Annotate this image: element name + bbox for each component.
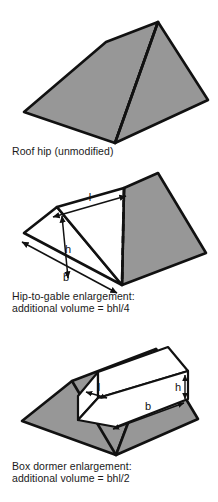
figure-3-caption-line2: additional volume = bhl/2 [12, 472, 130, 484]
breadth-label: b [145, 400, 151, 412]
figure-1-caption: Roof hip (unmodified) [12, 145, 113, 157]
box-dormer-diagram: l h b [0, 325, 218, 465]
gable-roof-shaded-slope [122, 173, 206, 285]
illustration-page: Roof hip (unmodified) l [0, 0, 218, 502]
hip-to-gable-diagram: l h b [0, 165, 218, 295]
length-label: l [98, 381, 100, 393]
height-label: h [175, 381, 181, 393]
breadth-label: b [63, 271, 69, 283]
figure-3-caption-line1: Box dormer enlargement: [12, 460, 132, 472]
figure-3-caption: Box dormer enlargement:additional volume… [12, 460, 132, 485]
figure-2-caption: Hip-to-gable enlargement:additional volu… [12, 290, 135, 315]
figure-2-caption-line1: Hip-to-gable enlargement: [12, 290, 135, 302]
figure-roof-hip-unmodified: Roof hip (unmodified) [0, 0, 218, 165]
figure-hip-to-gable-enlargement: l h b Hip-to-gable enlargement:additiona… [0, 165, 218, 325]
length-label: l [89, 191, 91, 203]
figure-box-dormer-enlargement: l h b Box dormer enlargement:additional … [0, 325, 218, 502]
figure-2-caption-line2: additional volume = bhl/4 [12, 302, 130, 314]
height-label: h [65, 243, 71, 255]
roof-hip-unmodified-diagram [0, 0, 218, 150]
